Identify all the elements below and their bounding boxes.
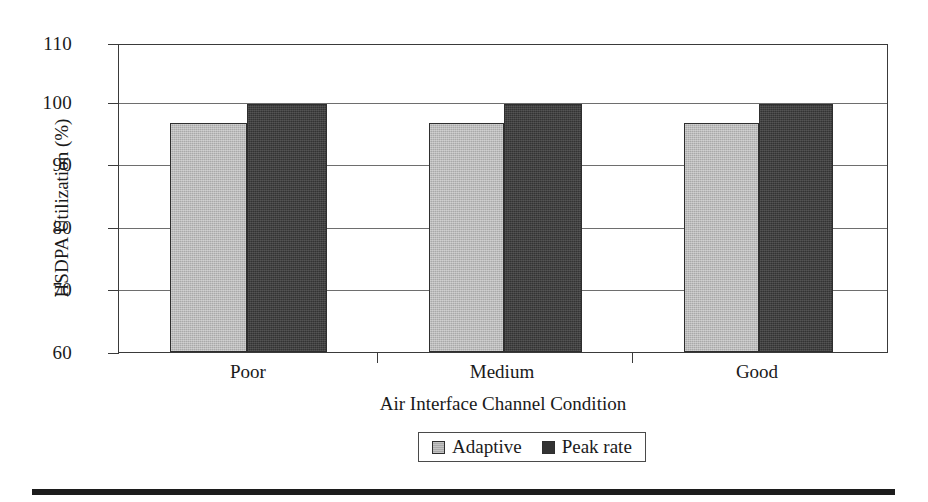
- y-tick-mark: [108, 353, 119, 354]
- y-axis-title: HSDPA Utilization (%): [52, 53, 72, 363]
- legend-label: Adaptive: [452, 437, 522, 457]
- legend-swatch-icon: [542, 441, 555, 454]
- plot-area: [118, 44, 888, 353]
- bar-adaptive-poor: [170, 123, 247, 352]
- x-category-label-poor: Poor: [188, 361, 308, 383]
- x-category-label-medium: Medium: [442, 361, 562, 383]
- bar-adaptive-medium: [429, 123, 504, 352]
- bar-adaptive-good: [684, 123, 759, 352]
- x-axis-title: Air Interface Channel Condition: [118, 393, 888, 415]
- y-tick-label: 110: [43, 34, 72, 53]
- chart-legend: Adaptive Peak rate: [418, 432, 646, 462]
- bar-peak-rate-poor: [247, 104, 327, 352]
- bar-peak-rate-good: [759, 104, 833, 352]
- legend-label: Peak rate: [562, 437, 632, 457]
- x-tick-mark: [632, 353, 633, 363]
- legend-item-adaptive: Adaptive: [432, 437, 522, 457]
- legend-item-peak-rate: Peak rate: [542, 437, 632, 457]
- x-category-label-good: Good: [697, 361, 817, 383]
- y-axis: 110 100 90 80 70 60 HSDPA Utilization (%…: [0, 0, 118, 502]
- x-tick-mark: [377, 353, 378, 363]
- legend-swatch-icon: [432, 441, 445, 454]
- bar-peak-rate-medium: [504, 104, 582, 352]
- figure-bar-chart: 110 100 90 80 70 60 HSDPA Utilization (%…: [0, 0, 928, 502]
- bottom-horizontal-rule: [32, 489, 895, 495]
